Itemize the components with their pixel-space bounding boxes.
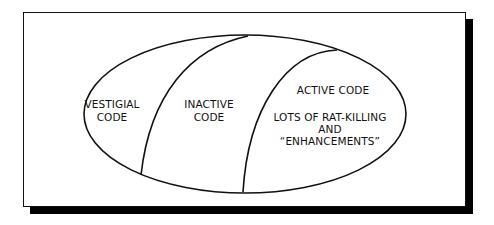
inactive-label-line1: INACTIVE [184,98,233,110]
diagram-svg: VESTIGIAL CODE INACTIVE CODE ACTIVE CODE… [0,0,494,225]
vestigial-label-line2: CODE [97,111,128,123]
region-vestigial: VESTIGIAL CODE [84,98,139,123]
vestigial-label-line1: VESTIGIAL [84,98,139,110]
active-label-line3: “ENHANCEMENTS” [280,135,380,147]
diagram-canvas: VESTIGIAL CODE INACTIVE CODE ACTIVE CODE… [0,0,494,225]
active-label-title: ACTIVE CODE [297,84,369,96]
active-label-line2: AND [318,123,341,135]
active-label-line1: LOTS OF RAT-KILLING [274,111,387,123]
inactive-label-line2: CODE [194,111,225,123]
region-inactive: INACTIVE CODE [184,98,233,123]
region-active: ACTIVE CODE LOTS OF RAT-KILLING AND “ENH… [274,84,387,147]
